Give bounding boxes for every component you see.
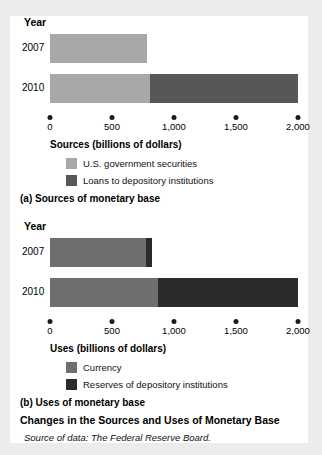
x-tick-label-2000-a: 2,000 — [286, 121, 310, 132]
x-tick-label-0-a: 0 — [47, 121, 52, 132]
x-axis-uses: 0 500 1,000 1,500 2,000 — [50, 319, 298, 335]
axis-title-year-a: Year — [24, 16, 46, 28]
legend-item-reserves: Reserves of depository institutions — [66, 377, 228, 391]
panel-title-sources: (a) Sources of monetary base — [20, 193, 160, 204]
x-axis-sources: 0 500 1,000 1,500 2,000 — [50, 115, 298, 131]
legend-swatch-currency — [66, 362, 77, 373]
legend-label-gov-securities: U.S. government securities — [83, 158, 197, 169]
panel-title-uses: (b) Uses of monetary base — [20, 397, 145, 408]
x-tick-label-0-b: 0 — [47, 325, 52, 336]
x-tick-dot-1500-b — [234, 319, 239, 324]
bar-segment-gov-securities-2010 — [50, 74, 150, 103]
bar-2010-sources — [50, 74, 298, 103]
bar-2010-uses — [50, 278, 298, 307]
legend-item-currency: Currency — [66, 360, 228, 374]
legend-swatch-gov-securities — [66, 158, 77, 169]
x-tick-label-1000-a: 1,000 — [162, 121, 186, 132]
x-tick-dot-0-a — [48, 115, 53, 120]
figure-title: Changes in the Sources and Uses of Monet… — [20, 414, 280, 426]
plot-area-sources — [50, 34, 298, 114]
bar-segment-loans-2010 — [150, 74, 298, 103]
bar-row-label-2010-a: 2010 — [22, 82, 44, 93]
figure-source-note: Source of data: The Federal Reserve Boar… — [24, 432, 211, 443]
x-axis-title-uses: Uses (billions of dollars) — [50, 343, 166, 354]
x-tick-dot-1000-b — [172, 319, 177, 324]
x-tick-dot-500-a — [110, 115, 115, 120]
bar-2007-sources — [50, 34, 147, 63]
legend-swatch-loans — [66, 175, 77, 186]
x-tick-dot-1500-a — [234, 115, 239, 120]
x-tick-dot-1000-a — [172, 115, 177, 120]
legend-label-currency: Currency — [83, 362, 122, 373]
figure-card: Year 2007 2010 0 500 1,000 1,500 2,000 S… — [10, 16, 308, 443]
x-axis-title-sources: Sources (billions of dollars) — [50, 139, 182, 150]
x-tick-label-1000-b: 1,000 — [162, 325, 186, 336]
bar-segment-reserves-2010 — [158, 278, 298, 307]
bar-2007-uses — [50, 238, 152, 267]
axis-title-year-b: Year — [24, 220, 46, 232]
x-tick-dot-500-b — [110, 319, 115, 324]
bar-row-label-2007-a: 2007 — [22, 42, 44, 53]
bar-row-label-2007-b: 2007 — [22, 246, 44, 257]
legend-item-gov-securities: U.S. government securities — [66, 156, 213, 170]
bar-segment-reserves-2007 — [146, 238, 152, 267]
x-tick-label-1500-b: 1,500 — [224, 325, 248, 336]
legend-label-loans: Loans to depository institutions — [83, 175, 213, 186]
plot-area-uses — [50, 238, 298, 318]
legend-item-loans: Loans to depository institutions — [66, 173, 213, 187]
legend-uses: Currency Reserves of depository institut… — [66, 360, 228, 394]
x-tick-dot-0-b — [48, 319, 53, 324]
bar-segment-currency-2007 — [50, 238, 146, 267]
x-tick-label-500-b: 500 — [104, 325, 120, 336]
legend-sources: U.S. government securities Loans to depo… — [66, 156, 213, 190]
legend-label-reserves: Reserves of depository institutions — [83, 379, 228, 390]
x-tick-label-500-a: 500 — [104, 121, 120, 132]
bar-segment-gov-securities-2007 — [50, 34, 147, 63]
bar-row-label-2010-b: 2010 — [22, 286, 44, 297]
x-tick-dot-2000-a — [296, 115, 301, 120]
legend-swatch-reserves — [66, 379, 77, 390]
x-tick-label-2000-b: 2,000 — [286, 325, 310, 336]
x-tick-label-1500-a: 1,500 — [224, 121, 248, 132]
bar-segment-currency-2010 — [50, 278, 158, 307]
x-tick-dot-2000-b — [296, 319, 301, 324]
